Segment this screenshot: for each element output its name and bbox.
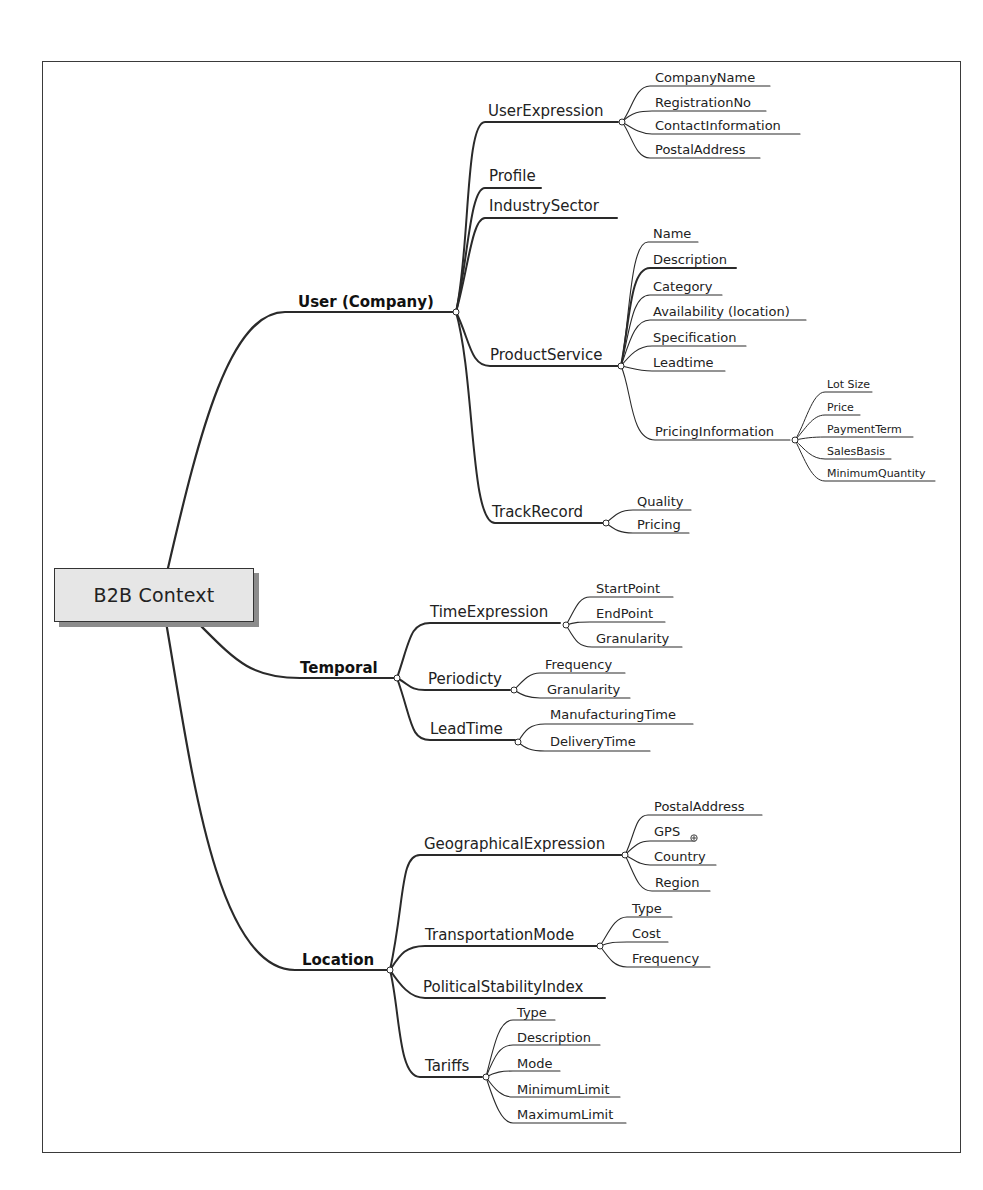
leaf-minimumlimit[interactable]: MinimumLimit [517, 1083, 609, 1096]
node-transportationmode[interactable]: TransportationMode [425, 928, 574, 943]
leaf-price[interactable]: Price [827, 402, 854, 413]
leaf-type-tariffs[interactable]: Type [517, 1006, 547, 1019]
leaf-category[interactable]: Category [653, 280, 712, 293]
node-trackrecord[interactable]: TrackRecord [492, 505, 583, 520]
leaf-contactinformation[interactable]: ContactInformation [655, 119, 781, 132]
leaf-region[interactable]: Region [655, 876, 700, 889]
leaf-manufacturingtime[interactable]: ManufacturingTime [550, 708, 676, 721]
leaf-cost[interactable]: Cost [632, 927, 661, 940]
leaf-pricing[interactable]: Pricing [637, 518, 681, 531]
leaf-lotsize[interactable]: Lot Size [827, 379, 870, 390]
leaf-quality[interactable]: Quality [637, 495, 683, 508]
attachment-icon [691, 835, 697, 841]
leaf-description[interactable]: Description [653, 253, 727, 266]
leaf-postaladdress[interactable]: PostalAddress [655, 143, 746, 156]
leaf-availability[interactable]: Availability (location) [653, 305, 790, 318]
leaf-granularity-periodicty[interactable]: Granularity [547, 683, 620, 696]
leaf-endpoint[interactable]: EndPoint [596, 607, 653, 620]
leaf-frequency[interactable]: Frequency [545, 658, 612, 671]
leaf-deliverytime[interactable]: DeliveryTime [550, 735, 636, 748]
leaf-paymentterm[interactable]: PaymentTerm [827, 424, 902, 435]
node-profile[interactable]: Profile [489, 169, 536, 184]
leaf-mode[interactable]: Mode [517, 1057, 552, 1070]
node-tariffs[interactable]: Tariffs [425, 1059, 469, 1074]
node-pricinginformation[interactable]: PricingInformation [655, 425, 774, 438]
leaf-companyname[interactable]: CompanyName [655, 71, 755, 84]
root-node[interactable]: B2B Context [54, 568, 254, 622]
leaf-gps[interactable]: GPS [654, 825, 680, 838]
junction-dot [453, 309, 459, 315]
node-timeexpression[interactable]: TimeExpression [430, 605, 548, 620]
leaf-name[interactable]: Name [653, 227, 691, 240]
leaf-frequency-transport[interactable]: Frequency [632, 952, 699, 965]
leaf-registrationno[interactable]: RegistrationNo [655, 96, 751, 109]
node-politicalstabilityindex[interactable]: PoliticalStabilityIndex [423, 980, 583, 995]
node-location[interactable]: Location [302, 953, 374, 968]
node-temporal[interactable]: Temporal [300, 661, 378, 676]
leaf-description-tariffs[interactable]: Description [517, 1031, 591, 1044]
root-label: B2B Context [94, 584, 215, 606]
leaf-maximumlimit[interactable]: MaximumLimit [517, 1108, 613, 1121]
leaf-type-transport[interactable]: Type [632, 902, 662, 915]
leaf-salesbasis[interactable]: SalesBasis [827, 446, 885, 457]
node-industrysector[interactable]: IndustrySector [489, 199, 599, 214]
node-periodicty[interactable]: Periodicty [428, 672, 502, 687]
node-geographicalexpression[interactable]: GeographicalExpression [424, 837, 605, 852]
node-leadtime[interactable]: LeadTime [430, 722, 503, 737]
node-productservice[interactable]: ProductService [490, 348, 602, 363]
leaf-postaladdress-geo[interactable]: PostalAddress [654, 800, 745, 813]
leaf-leadtime[interactable]: Leadtime [653, 356, 714, 369]
leaf-granularity-time[interactable]: Granularity [596, 632, 669, 645]
leaf-specification[interactable]: Specification [653, 331, 736, 344]
leaf-startpoint[interactable]: StartPoint [596, 582, 660, 595]
node-userexpression[interactable]: UserExpression [488, 104, 604, 119]
node-user-company[interactable]: User (Company) [298, 295, 434, 310]
leaf-minimumquantity[interactable]: MinimumQuantity [827, 468, 926, 479]
leaf-country[interactable]: Country [654, 850, 706, 863]
